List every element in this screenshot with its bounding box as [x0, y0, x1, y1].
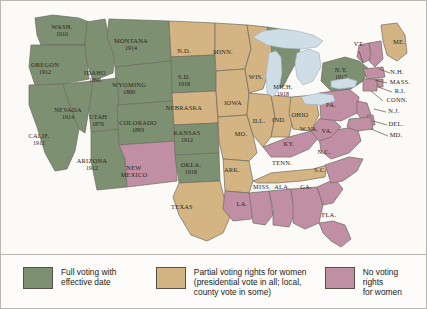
legend-swatch-partial — [156, 267, 186, 289]
state-ms — [249, 191, 273, 225]
legend-item-full: Full voting with effective date — [23, 266, 156, 289]
state-label-wi: WIS. — [249, 73, 263, 80]
state-nh — [369, 41, 383, 67]
legend-items: Full voting with effective datePartial v… — [23, 266, 416, 298]
state-label-tn: TENN. — [272, 159, 292, 166]
state-label-nd: N.D. — [177, 47, 191, 54]
state-label-nc: N.C. — [317, 148, 330, 155]
legend-swatch-full — [23, 267, 53, 289]
state-mn — [215, 23, 251, 71]
us-map-svg: WASH.1910OREGON1912CALIF.1911NEVADA1914I… — [1, 1, 427, 254]
map-page: WASH.1910OREGON1912CALIF.1911NEVADA1914I… — [0, 0, 427, 309]
state-label-il: ILL. — [253, 117, 266, 124]
state-label-ia: IOWA — [224, 99, 242, 106]
state-ri — [377, 79, 383, 87]
legend-swatch-none — [325, 267, 355, 289]
state-label-al: ALA. — [274, 183, 290, 190]
state-label-ky: KY. — [284, 140, 295, 147]
legend-label-partial: Partial voting rights for women (preside… — [194, 266, 307, 298]
leader-ct — [371, 91, 383, 101]
state-label-ny: N.Y.1917 — [335, 66, 348, 80]
state-label-mi: MICH.1918 — [273, 83, 293, 97]
state-nd — [169, 21, 215, 57]
leader-ri — [378, 87, 392, 92]
state-label-ga: GA. — [300, 183, 312, 190]
us-map-figure: WASH.1910OREGON1912CALIF.1911NEVADA1914I… — [0, 0, 427, 255]
state-md — [347, 117, 373, 131]
state-label-de: DEL. — [388, 120, 403, 127]
state-al — [269, 189, 295, 227]
state-label-va: VA. — [322, 127, 333, 134]
state-label-ar: ARK. — [224, 166, 240, 173]
state-fl — [319, 221, 351, 247]
state-tx — [173, 181, 231, 241]
leader-md — [371, 129, 388, 136]
state-label-ms: MISS. — [253, 183, 271, 190]
state-ia — [216, 69, 249, 117]
state-nc — [325, 157, 363, 183]
state-ct — [363, 79, 377, 91]
legend-item-none: No voting rights for women — [325, 266, 416, 298]
state-ga — [291, 187, 323, 229]
state-label-me: ME. — [393, 38, 405, 45]
legend-label-none: No voting rights for women — [363, 266, 416, 298]
state-label-ri: R.I. — [395, 87, 406, 94]
state-label-ne: NEBRASKA — [166, 104, 203, 111]
leader-nj — [374, 109, 386, 112]
legend-label-full: Full voting with effective date — [61, 266, 116, 287]
state-label-fl: FLA. — [322, 211, 337, 218]
state-label-ma: MASS. — [390, 78, 410, 85]
state-label-wv: W.VA. — [300, 125, 318, 132]
state-label-nh: N.H. — [390, 68, 404, 75]
state-label-pa: PA. — [326, 101, 336, 108]
state-label-vt: VT. — [354, 40, 365, 47]
state-ar — [223, 159, 253, 193]
state-ma — [363, 67, 385, 79]
legend-item-partial: Partial voting rights for women (preside… — [156, 266, 325, 298]
map-legend: Full voting with effective datePartial v… — [0, 255, 427, 309]
state-label-la: LA. — [237, 200, 248, 207]
state-label-sc: S.C. — [314, 166, 326, 173]
state-label-sd: S.D.1918 — [178, 73, 191, 87]
state-label-in: IND. — [272, 116, 286, 123]
state-label-mn: MINN. — [213, 48, 233, 55]
state-label-ct: CONN. — [387, 96, 408, 103]
state-ok — [175, 153, 220, 183]
lake-huron-shape — [295, 49, 321, 85]
state-label-mo: MO. — [235, 130, 248, 137]
state-label-md: MD. — [390, 131, 403, 138]
state-label-tx: TEXAS — [171, 203, 193, 210]
state-label-oh: OHIO — [292, 111, 309, 118]
state-label-nj: N.J. — [388, 107, 399, 114]
